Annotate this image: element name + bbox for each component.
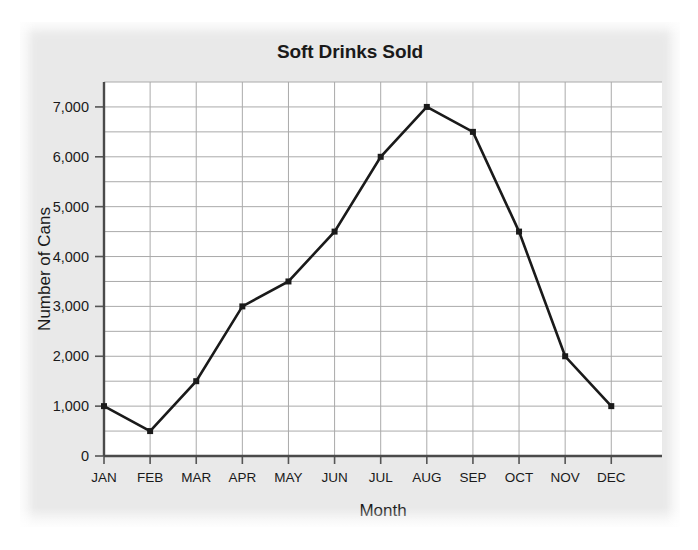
x-tick-label: SEP <box>459 470 486 485</box>
x-tick-label: MAY <box>274 470 302 485</box>
x-tick-label: JUN <box>321 470 347 485</box>
data-point-marker[interactable] <box>378 154 384 160</box>
x-tick-label: APR <box>228 470 256 485</box>
x-tick-label: DEC <box>597 470 626 485</box>
y-tick-label: 2,000 <box>53 348 89 364</box>
chart-figure-card: Soft Drinks Sold 01,0002,0003,0004,0005,… <box>20 22 680 527</box>
data-point-marker[interactable] <box>193 378 199 384</box>
line-chart-plot: 01,0002,0003,0004,0005,0006,0007,000JANF… <box>20 22 680 527</box>
y-tick-label: 6,000 <box>53 149 89 165</box>
y-tick-label: 5,000 <box>53 199 89 215</box>
y-tick-label: 4,000 <box>53 249 89 265</box>
plot-area-background <box>104 82 662 456</box>
data-point-marker[interactable] <box>516 229 522 235</box>
data-point-marker[interactable] <box>332 229 338 235</box>
x-tick-label: JAN <box>91 470 117 485</box>
x-tick-label: OCT <box>505 470 534 485</box>
x-tick-label: MAR <box>181 470 211 485</box>
x-axis-title: Month <box>359 501 406 520</box>
x-tick-label: AUG <box>412 470 441 485</box>
x-tick-label: JUL <box>369 470 393 485</box>
data-point-marker[interactable] <box>239 303 245 309</box>
data-point-marker[interactable] <box>101 403 107 409</box>
data-point-marker[interactable] <box>147 428 153 434</box>
x-tick-label: NOV <box>551 470 580 485</box>
data-point-marker[interactable] <box>470 129 476 135</box>
y-tick-label: 0 <box>81 448 89 464</box>
data-point-marker[interactable] <box>562 353 568 359</box>
data-point-marker[interactable] <box>285 278 291 284</box>
data-point-marker[interactable] <box>608 403 614 409</box>
y-tick-label: 3,000 <box>53 298 89 314</box>
x-tick-label: FEB <box>137 470 163 485</box>
y-tick-label: 1,000 <box>53 398 89 414</box>
data-point-marker[interactable] <box>424 104 430 110</box>
y-tick-label: 7,000 <box>53 99 89 115</box>
y-axis-title: Number of Cans <box>35 207 54 331</box>
